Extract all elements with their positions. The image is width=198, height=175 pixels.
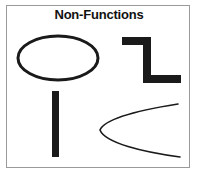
- parabola-curve: [100, 104, 180, 157]
- sideways-parabola-shape: [0, 0, 198, 175]
- shapes-layer: [0, 0, 198, 175]
- non-functions-figure: Non-Functions: [0, 0, 198, 175]
